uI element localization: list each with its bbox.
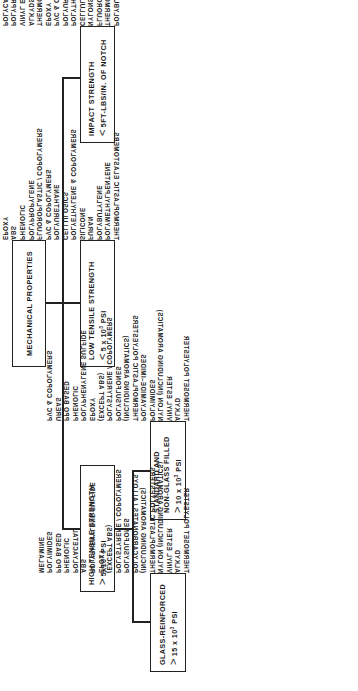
material-item: EPOXY bbox=[0, 128, 9, 240]
glass-reinforced-materials-list: THERMOSET POLYESTERALKYDVINYL ESTERNYLON… bbox=[36, 461, 190, 573]
material-item: VINYL ESTERS bbox=[17, 0, 26, 26]
material-item: POLYACETAL bbox=[70, 461, 79, 573]
material-item: POLYPROPYLENE bbox=[26, 128, 35, 240]
material-item: NYLONS bbox=[86, 0, 95, 26]
impact-strength-title: IMPACT STRENGTH bbox=[86, 33, 97, 136]
material-item: POLYURETHANE bbox=[52, 128, 61, 240]
impact-connector-line bbox=[62, 77, 80, 79]
material-item: ABS bbox=[79, 461, 88, 573]
material-item: EPOXY bbox=[87, 309, 96, 421]
root-connector-line bbox=[45, 302, 63, 304]
material-item: VINYL ESTER bbox=[164, 461, 173, 573]
material-item: PHENOLIC bbox=[70, 309, 79, 421]
material-item: (EXCEPT ABS) bbox=[96, 309, 105, 421]
material-item: POLYBUTYLENE bbox=[94, 128, 103, 240]
material-item: CELLULOSICS bbox=[77, 0, 86, 26]
material-item: THERMOPLASTIC POLYESTERS bbox=[130, 309, 139, 421]
material-item: POLYCARBONATE bbox=[0, 0, 9, 26]
material-item: ALKYD bbox=[173, 309, 182, 421]
material-item: PVC & COPOLYMERS bbox=[45, 309, 54, 421]
material-item: (INCLUDING AROMATICS) bbox=[139, 461, 148, 573]
material-item: THERMOSET POLYESTER bbox=[181, 461, 190, 573]
material-item: POLYIMIDES bbox=[147, 309, 156, 421]
material-item: ALKYDS bbox=[26, 0, 35, 26]
material-item: THERMOPLASTIC POLYESTERS bbox=[147, 461, 156, 573]
glass-criterion: >15 x 103 PSI bbox=[168, 580, 180, 665]
material-item: (INCLUDING AROMATICS) bbox=[122, 309, 131, 421]
material-item: THERMOSETTING POLYESTERS bbox=[35, 0, 44, 26]
material-item: FURAN bbox=[86, 128, 95, 240]
material-item: VINYL ESTER bbox=[164, 309, 173, 421]
glass-reinforced-box: GLASS-REINFORCED >15 x 103 PSI bbox=[150, 573, 186, 672]
low-tensile-materials-list: THERMOPLASTIC ELASTOMERSPOLYMETHYLPENTEN… bbox=[0, 128, 120, 240]
material-item: THERMOPLASTIC ELASTOMERS bbox=[103, 0, 112, 26]
material-item: FLUOROPLASTICS bbox=[94, 0, 103, 26]
material-item: PVC & COPOLYMERS bbox=[52, 0, 61, 26]
material-item: PHENOLIC bbox=[62, 461, 71, 573]
material-item: PPO BASED bbox=[62, 309, 71, 421]
material-item: POLYSTYRENE / COPOLYMERS bbox=[105, 309, 114, 421]
mechanical-properties-tree: MECHANICAL PROPERTIES IMPACT STRENGTH <5… bbox=[0, 0, 358, 691]
material-item: POLYSULFONES bbox=[113, 309, 122, 421]
material-item: CELLULOSICS bbox=[60, 128, 69, 240]
material-item: POLYSULFONES bbox=[122, 461, 131, 573]
material-item: POLYPHENYLENE SULFIDE bbox=[87, 461, 96, 573]
mechanical-properties-title: MECHANICAL PROPERTIES bbox=[24, 251, 35, 356]
material-item: FLUOROPLASTIC / COPOLYMERS bbox=[35, 128, 44, 240]
material-item: EPOXY bbox=[96, 461, 105, 573]
greater-than-symbol: > bbox=[167, 658, 179, 665]
glass-title: GLASS-REINFORCED bbox=[157, 580, 168, 665]
impact-strength-box: IMPACT STRENGTH <5FT-LBS/IN. OF NOTCH bbox=[80, 26, 115, 143]
material-item: POLYETHYLENE & COPOLYMERS bbox=[69, 128, 78, 240]
material-item: THERMOSET POLYESTER bbox=[181, 309, 190, 421]
material-item: PPO BASED bbox=[53, 461, 62, 573]
material-item: POLYPHENYLENE SULFIDE bbox=[79, 309, 88, 421]
greater-than-symbol: > bbox=[96, 578, 108, 585]
material-item: UREAS bbox=[53, 309, 62, 421]
material-item: POLYURETHANE bbox=[60, 0, 69, 26]
material-item: MELAMINE bbox=[36, 461, 45, 573]
material-item: SILICONE bbox=[77, 128, 86, 240]
impact-strength-criterion: <5FT-LBS/IN. OF NOTCH bbox=[97, 33, 109, 136]
material-item: POLYAMIDE–IMIDES bbox=[139, 309, 148, 421]
material-item: PVC & COPOLYMERS bbox=[43, 128, 52, 240]
material-item: POLYPROPYLENE bbox=[9, 0, 18, 26]
mechanical-properties-box: MECHANICAL PROPERTIES bbox=[12, 240, 46, 367]
material-item: ABS bbox=[9, 128, 18, 240]
material-item: POLYBUTYLENES bbox=[111, 0, 120, 26]
material-item: POLYTHYLENE & COPOLYMERS bbox=[69, 0, 78, 26]
material-item: EPOXY bbox=[43, 0, 52, 26]
material-item: POLYSTYRENE / COPOLYMERS bbox=[113, 461, 122, 573]
material-item: THERMOPLASTIC ELASTOMERS bbox=[111, 128, 120, 240]
impact-strength-materials-list: POLYBUTYLENESTHERMOPLASTIC ELASTOMERSFLU… bbox=[0, 0, 120, 26]
low-tensile-connector-line bbox=[62, 302, 80, 304]
material-item: POLYCARBONATES / ALLOYS bbox=[130, 461, 139, 573]
material-item: (EXCEPT ABS) bbox=[105, 461, 114, 573]
material-item: POLYIMIDES bbox=[45, 461, 54, 573]
material-item: ALKYD bbox=[173, 461, 182, 573]
material-item: NYLON (INCLUDING AROMATICS) bbox=[156, 461, 165, 573]
material-item: POLYMETHYLPENTENE bbox=[103, 128, 112, 240]
material-item: PHENOLIC bbox=[17, 128, 26, 240]
standard-materials-list: THERMOSET POLYESTERALKYDVINYL ESTERNYLON… bbox=[45, 309, 190, 421]
glass-connector-line bbox=[132, 621, 150, 623]
material-item: NYLON (INCLUDING AROMATICS) bbox=[156, 309, 165, 421]
